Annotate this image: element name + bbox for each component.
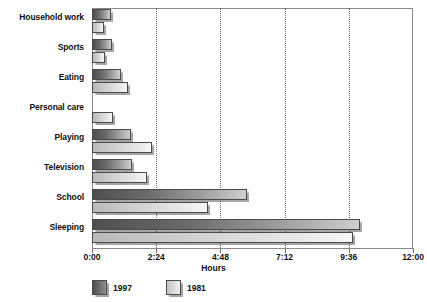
x-tick-label: 9:36 [329,252,369,262]
bar-1981 [92,232,353,243]
category-label: School [0,192,84,202]
x-axis-line [92,248,414,249]
category-label: Sleeping [0,222,84,232]
bar-group [92,98,413,128]
bar-rows [92,8,413,248]
bar-1997 [92,9,111,20]
bar-group [92,218,413,248]
bar-1981 [92,142,152,153]
category-label: Television [0,162,84,172]
bar-group [92,8,413,38]
x-tick-label: 7:12 [265,252,305,262]
bar-1997 [92,159,132,170]
bar-1997 [92,189,247,200]
legend: 1997 1981 [92,280,206,295]
category-label: Playing [0,132,84,142]
legend-label: 1981 [187,283,206,293]
category-label: Sports [0,42,84,52]
bar-1981 [92,52,105,63]
x-tick-label: 4:48 [200,252,240,262]
bar-1981 [92,22,104,33]
bar-1997 [92,69,121,80]
bar-1981 [92,82,128,93]
legend-item-1997: 1997 [92,280,132,295]
x-tick-label: 0:00 [72,252,112,262]
bar-1981 [92,172,147,183]
bar-1981 [92,202,208,213]
bar-chart: Household work Sports Eating Personal ca… [0,0,427,302]
category-label: Household work [0,12,84,22]
x-tick-label: 12:00 [393,252,427,262]
bar-1997 [92,219,360,230]
bar-1997 [92,129,131,140]
bar-1981 [92,112,113,123]
bar-group [92,158,413,188]
bar-group [92,68,413,98]
category-label: Eating [0,72,84,82]
category-axis-labels: Household work Sports Eating Personal ca… [0,0,88,248]
bar-group [92,128,413,158]
bar-1997 [92,39,112,50]
legend-item-1981: 1981 [166,280,206,295]
category-label: Personal care [0,102,84,112]
bar-group [92,188,413,218]
legend-swatch-icon [166,280,181,295]
legend-swatch-icon [92,280,107,295]
bar-group [92,38,413,68]
legend-label: 1997 [113,283,132,293]
x-tick-label: 2:24 [136,252,176,262]
x-axis-title: Hours [0,263,427,273]
